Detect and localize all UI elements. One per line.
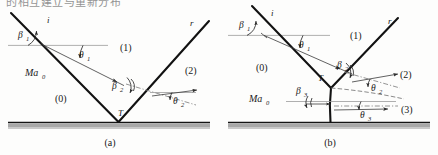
label-angle-theta2-a: θ 2 <box>173 96 185 108</box>
label-angle-beta1-a: β 1 <box>17 30 29 42</box>
ground-b <box>228 123 430 130</box>
figure-root: 的相互建立与重新分布 <box>0 0 438 155</box>
slipstream-b <box>331 88 404 99</box>
svg-text:3: 3 <box>367 115 372 122</box>
svg-text:2: 2 <box>379 88 383 95</box>
label-region-2-b: (2) <box>400 69 412 81</box>
caption-panel-b: (b) <box>324 137 336 149</box>
label-angle-beta1-b: β 1 <box>238 20 250 32</box>
label-triple-point-b: T <box>318 73 324 83</box>
label-angle-theta1-b: θ 1 <box>299 40 310 52</box>
label-angle-theta1-a: θ 1 <box>79 50 90 62</box>
svg-text:Ma: Ma <box>24 67 38 78</box>
svg-text:β: β <box>17 30 23 40</box>
svg-text:β: β <box>336 60 342 70</box>
svg-text:2: 2 <box>120 86 124 93</box>
label-reflected-ray-a: r <box>190 18 194 28</box>
mach-stem-b <box>330 88 331 122</box>
svg-text:β: β <box>111 81 117 91</box>
label-region-2-a: (2) <box>185 65 197 77</box>
label-region-1-b: (1) <box>350 30 362 42</box>
caption-panel-a: (a) <box>104 137 115 149</box>
svg-text:2: 2 <box>181 101 185 108</box>
page-header-text: 的相互建立与重新分布 <box>6 0 121 9</box>
label-angle-beta3-b: β 3 <box>295 86 308 98</box>
ground-a <box>8 123 210 130</box>
angle-arc-theta2-b <box>368 79 370 87</box>
svg-text:θ: θ <box>371 83 376 93</box>
label-incident-ray-b: i <box>271 8 274 18</box>
svg-text:θ: θ <box>299 40 304 50</box>
svg-text:θ: θ <box>79 50 84 60</box>
label-angle-beta2-a: β 2 <box>111 81 124 93</box>
label-freestream-b: Ma 0 <box>248 93 270 106</box>
label-freestream-a: Ma 0 <box>24 67 46 80</box>
svg-text:1: 1 <box>307 45 310 52</box>
svg-text:1: 1 <box>247 25 250 32</box>
label-region-0-b: (0) <box>256 62 268 74</box>
label-region-3-b: (3) <box>401 104 413 116</box>
label-reflected-ray-b: r <box>388 16 392 26</box>
svg-text:Ma: Ma <box>248 93 262 104</box>
angle-arc-beta3b-b <box>311 98 312 107</box>
label-region-0-a: (0) <box>55 93 67 105</box>
label-region-1-a: (1) <box>120 42 132 54</box>
svg-text:θ: θ <box>360 110 365 120</box>
label-angle-theta3-b: θ 3 <box>360 110 372 122</box>
panel-a: i r T Ma 0 (0) (1) (2) β 1 θ 1 β 2 <box>8 13 210 149</box>
angle-arc-beta2b-a <box>131 79 134 91</box>
svg-text:θ: θ <box>173 96 178 106</box>
angle-arc-theta3-b <box>359 102 361 111</box>
label-incident-ray-a: i <box>47 15 50 25</box>
svg-text:1: 1 <box>87 55 90 62</box>
svg-text:1: 1 <box>26 35 29 42</box>
svg-text:0: 0 <box>42 73 46 80</box>
svg-text:0: 0 <box>266 99 270 106</box>
shock-reflection-figure: i r T Ma 0 (0) (1) (2) β 1 θ 1 β 2 <box>0 0 438 155</box>
panel-b: i r T Ma 0 (0) (1) (2) (3) β 1 θ 1 β 2 <box>228 6 430 149</box>
svg-text:β: β <box>238 20 244 30</box>
svg-text:β: β <box>295 86 301 96</box>
